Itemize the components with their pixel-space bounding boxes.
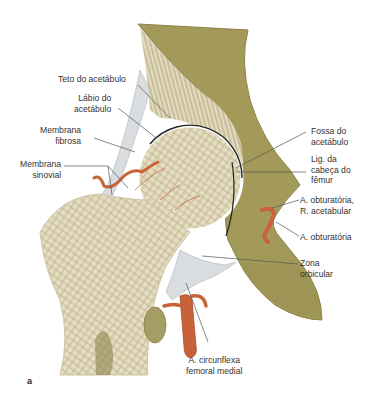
- label-lig-cabeca-femur: Lig. da cabeça do fêmur: [311, 154, 351, 186]
- label-labio-do-acetabulo: Lábio do acetábulo: [74, 93, 111, 114]
- femur: [40, 194, 190, 375]
- label-zona-orbicular: Zona orbicular: [300, 258, 333, 279]
- label-membrana-sinovial: Membrana sinovial: [20, 159, 61, 180]
- lesser-trochanter: [144, 307, 166, 343]
- label-a-circunflexa-femoral-medial: A. circunflexa femoral medial: [186, 355, 242, 376]
- label-membrana-fibrosa: Membrana fibrosa: [40, 125, 81, 146]
- label-teto-do-acetabulo: Teto do acetábulo: [58, 74, 126, 85]
- label-a-obturatoria: A. obturatória: [300, 232, 352, 243]
- label-fossa-do-acetabulo: Fossa do acetábulo: [311, 126, 348, 147]
- capsule-lower: [166, 250, 236, 300]
- label-a-obturatoria-r-acetabular: A. obturatória, R. acetabular: [300, 195, 354, 216]
- panel-letter: a: [27, 376, 32, 386]
